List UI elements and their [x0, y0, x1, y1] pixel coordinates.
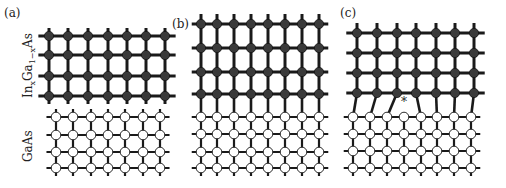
atom-ingaas	[122, 71, 131, 80]
label-in: In	[21, 85, 35, 98]
atom-gaas	[280, 163, 290, 173]
atom-ingaas	[160, 31, 169, 40]
panel-c	[344, 23, 485, 176]
atom-ingaas	[122, 50, 131, 59]
atom-ingaas	[297, 43, 306, 52]
atom-gaas	[263, 147, 273, 157]
atom-ingaas	[83, 31, 92, 40]
atom-ingaas	[280, 43, 289, 52]
atom-ingaas	[196, 19, 205, 28]
panel-label-b: (b)	[172, 17, 189, 31]
atom-gaas	[382, 112, 392, 122]
atom-gaas	[449, 163, 459, 173]
atom-ingaas	[63, 71, 72, 80]
atom-ingaas	[44, 71, 53, 80]
atom-gaas	[280, 112, 290, 122]
atom-ingaas	[246, 67, 255, 76]
atom-ingaas	[212, 43, 221, 52]
atom-gaas	[138, 130, 148, 140]
atom-ingaas	[229, 19, 238, 28]
atom-ingaas	[103, 50, 112, 59]
atom-gaas	[86, 147, 96, 157]
atom-ingaas	[122, 31, 131, 40]
atom-gaas	[51, 130, 61, 140]
atom-gaas	[68, 130, 78, 140]
atom-ingaas	[297, 19, 306, 28]
atom-ingaas	[103, 91, 112, 100]
atom-gaas	[280, 147, 290, 157]
atom-ingaas	[44, 31, 53, 40]
atom-gaas	[314, 147, 324, 157]
atom-gaas	[86, 163, 96, 173]
atom-gaas	[365, 129, 375, 139]
atom-gaas	[416, 129, 426, 139]
atom-ingaas	[431, 88, 440, 97]
atom-ingaas	[196, 43, 205, 52]
atom-gaas	[348, 163, 358, 173]
atom-ingaas	[392, 48, 401, 57]
atom-ingaas	[450, 48, 459, 57]
atom-ingaas	[314, 67, 323, 76]
atom-gaas	[120, 163, 130, 173]
atom-gaas	[155, 112, 165, 122]
atom-gaas	[103, 147, 113, 157]
panel-a	[38, 28, 175, 176]
atom-gaas	[212, 147, 222, 157]
atom-gaas	[432, 163, 442, 173]
atom-gaas	[51, 112, 61, 122]
atom-ingaas	[352, 48, 361, 57]
atom-ingaas	[280, 89, 289, 98]
atom-ingaas	[229, 89, 238, 98]
atom-ingaas	[469, 88, 478, 97]
atom-gaas	[348, 129, 358, 139]
atom-ingaas	[83, 91, 92, 100]
atom-gaas	[86, 112, 96, 122]
atom-ingaas	[469, 68, 478, 77]
atom-gaas	[416, 146, 426, 156]
atom-ingaas	[141, 50, 150, 59]
atom-ingaas	[392, 68, 401, 77]
atom-ingaas	[212, 89, 221, 98]
layer-label-gaas: GaAs	[21, 130, 35, 162]
atom-ingaas	[160, 91, 169, 100]
atom-ingaas	[314, 19, 323, 28]
atom-ingaas	[431, 48, 440, 57]
atom-ingaas	[246, 43, 255, 52]
atom-ingaas	[352, 68, 361, 77]
atom-ingaas	[160, 71, 169, 80]
atom-ingaas	[450, 88, 459, 97]
label-as: As	[21, 33, 35, 49]
atom-ingaas	[280, 19, 289, 28]
atom-gaas	[196, 112, 206, 122]
atom-ingaas	[263, 67, 272, 76]
atom-gaas	[138, 112, 148, 122]
atom-gaas	[246, 129, 256, 139]
atom-gaas	[196, 147, 206, 157]
atom-gaas	[399, 163, 409, 173]
atom-gaas	[449, 129, 459, 139]
atom-ingaas	[411, 48, 420, 57]
atom-gaas	[466, 163, 476, 173]
atom-gaas	[365, 146, 375, 156]
atom-gaas	[229, 147, 239, 157]
atom-ingaas	[314, 43, 323, 52]
atom-ingaas	[469, 28, 478, 37]
atom-ingaas	[160, 50, 169, 59]
atom-gaas	[246, 147, 256, 157]
atom-gaas	[297, 112, 307, 122]
atom-ingaas	[212, 19, 221, 28]
atom-gaas	[155, 130, 165, 140]
atom-ingaas	[280, 67, 289, 76]
atom-gaas	[103, 130, 113, 140]
atom-ingaas	[372, 28, 381, 37]
atom-gaas	[196, 163, 206, 173]
atom-ingaas	[431, 68, 440, 77]
label-ga: Ga	[21, 64, 35, 81]
atom-gaas	[212, 163, 222, 173]
atom-ingaas	[263, 19, 272, 28]
atom-ingaas	[411, 28, 420, 37]
atom-ingaas	[63, 91, 72, 100]
atom-gaas	[51, 163, 61, 173]
atom-gaas	[449, 112, 459, 122]
atom-ingaas	[469, 48, 478, 57]
